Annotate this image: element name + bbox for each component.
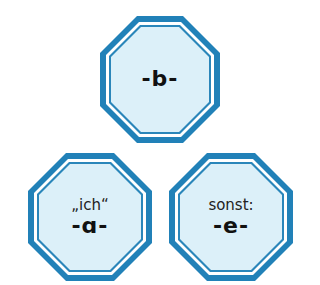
- octagon-bottom-left-ich-a: „ich“ -ɑ-: [26, 151, 154, 283]
- caption-ich-label: „ich“: [26, 196, 154, 214]
- octagon-top-b: -b-: [97, 13, 223, 146]
- caption-sonst-label: sonst:: [167, 196, 295, 214]
- octagon-bottom-right-sonst-e: sonst: -e-: [167, 151, 295, 283]
- letter-b-label: -b-: [97, 66, 223, 91]
- letter-e-label: -e-: [167, 213, 295, 238]
- letter-a-label: -ɑ-: [26, 213, 154, 238]
